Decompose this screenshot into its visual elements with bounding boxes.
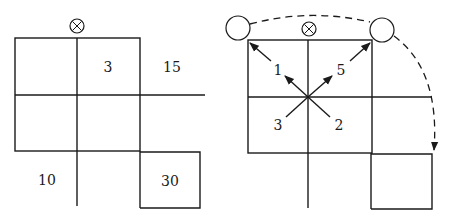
arrow-label-lower-right: 2 [335,117,344,133]
right-small-square [371,154,432,209]
dashed-arc-right [394,36,435,150]
left-empty-circle [226,16,250,40]
diagonal-lower-left [286,97,308,117]
left-marker-icon [70,19,84,33]
left-label-top-middle: 3 [104,59,113,75]
left-label-top-right: 15 [163,59,181,75]
arrow-label-upper-left: 1 [274,62,283,78]
arrow-label-upper-right: 5 [337,62,346,78]
arrow-center-upper-right [308,76,332,97]
right-empty-circle [370,18,394,42]
right-panel: 1 5 3 2 [226,15,435,209]
arrow-to-top-left-corner [250,43,271,61]
arrow-to-top-right-corner [350,43,370,61]
arrow-center-upper-left [285,76,308,97]
left-panel: 3 15 10 30 [15,19,205,208]
left-label-bottom-left: 10 [38,172,56,188]
diagram-canvas: 3 15 10 30 [0,0,456,222]
diagonal-lower-right [308,97,330,117]
right-marker-icon [302,22,316,36]
left-label-bottom-right: 30 [161,173,179,189]
arrow-label-lower-left: 3 [274,117,283,133]
